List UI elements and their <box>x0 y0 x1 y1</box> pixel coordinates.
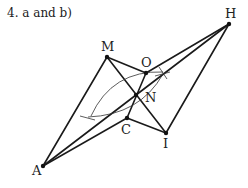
label-A: A <box>31 163 42 178</box>
point-O <box>144 71 148 75</box>
label-N: N <box>145 90 156 105</box>
point-M <box>105 55 109 59</box>
label-O: O <box>141 55 152 70</box>
point-N <box>134 93 138 97</box>
segment-CA <box>43 118 127 166</box>
segment-AM <box>43 57 107 166</box>
segment-OH <box>146 24 229 73</box>
segment-HI <box>166 24 229 133</box>
label-C: C <box>121 122 131 137</box>
label-I: I <box>163 136 168 151</box>
point-C <box>125 116 129 120</box>
label-H: H <box>225 6 236 21</box>
geometry-diagram: M H O N C I A <box>0 0 248 188</box>
point-H <box>227 22 231 26</box>
label-M: M <box>101 39 114 54</box>
point-A <box>41 164 45 168</box>
point-I <box>164 131 168 135</box>
